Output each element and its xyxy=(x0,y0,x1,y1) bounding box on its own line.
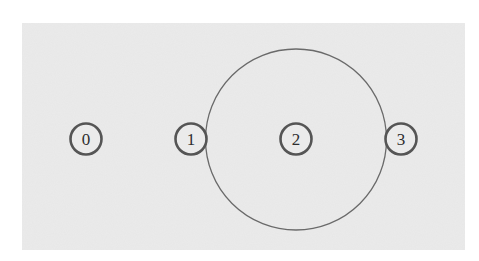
node-label: 1 xyxy=(187,130,196,149)
node-label: 3 xyxy=(397,130,406,149)
node-3: 3 xyxy=(386,124,417,155)
node-0: 0 xyxy=(71,124,102,155)
node-label: 2 xyxy=(292,130,301,149)
node-1: 1 xyxy=(176,124,207,155)
node-2: 2 xyxy=(281,124,312,155)
diagram-canvas: 0123 xyxy=(0,0,479,261)
node-label: 0 xyxy=(82,130,91,149)
